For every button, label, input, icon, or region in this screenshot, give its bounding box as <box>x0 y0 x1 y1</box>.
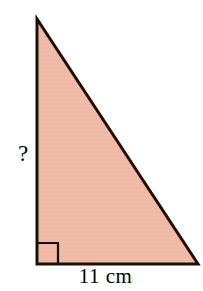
base-side-label: 11 cm <box>0 266 203 287</box>
figure-canvas: ? 11 cm <box>0 0 203 291</box>
vertical-side-label: ? <box>13 142 33 165</box>
